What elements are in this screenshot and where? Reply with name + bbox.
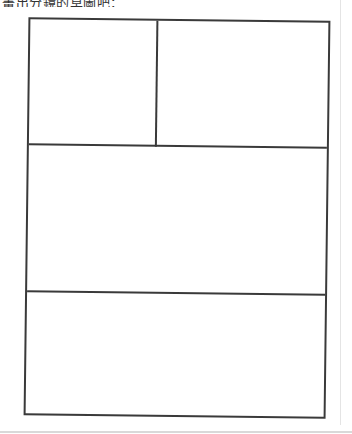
instruction-text: 畫出分鏡的草圖吧： [2, 0, 124, 7]
page-edge-bottom [0, 431, 352, 433]
instruction-text-container: 畫出分鏡的草圖吧： [0, 0, 200, 7]
page-edge-right [340, 0, 341, 425]
storyboard-panel-2[interactable] [157, 21, 329, 147]
storyboard-frame [24, 17, 331, 419]
storyboard-panel-4[interactable] [26, 292, 325, 417]
storyboard-panel-3[interactable] [27, 145, 327, 294]
storyboard-panel-1[interactable] [29, 19, 157, 145]
